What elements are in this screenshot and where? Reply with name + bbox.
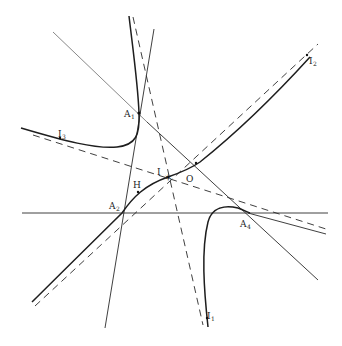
svg-text:1: 1 bbox=[131, 113, 135, 120]
svg-text:1: 1 bbox=[211, 315, 215, 322]
point-o bbox=[195, 162, 197, 164]
label-i: I bbox=[157, 167, 161, 177]
svg-text:A: A bbox=[123, 109, 131, 119]
label-i3: I 3 bbox=[58, 129, 66, 140]
line-a1-a4-cont bbox=[147, 122, 318, 280]
svg-text:A: A bbox=[108, 201, 116, 211]
point-h bbox=[137, 191, 139, 193]
svg-text:A: A bbox=[239, 219, 247, 229]
label-a2: A 2 bbox=[108, 201, 120, 212]
svg-text:2: 2 bbox=[116, 205, 120, 212]
label-o: O bbox=[186, 174, 193, 184]
svg-text:4: 4 bbox=[247, 223, 251, 230]
asymptote-i2 bbox=[35, 44, 318, 306]
svg-text:3: 3 bbox=[62, 133, 66, 140]
point-i2 bbox=[306, 54, 308, 56]
point-a1 bbox=[137, 111, 140, 114]
asymptote-i3 bbox=[33, 135, 326, 229]
curve-branch-upper bbox=[21, 16, 139, 147]
line-a2-a1 bbox=[105, 29, 154, 328]
label-a1: A 1 bbox=[123, 109, 135, 120]
label-i1: I 1 bbox=[207, 311, 215, 322]
svg-text:2: 2 bbox=[313, 60, 317, 67]
label-a4: A 4 bbox=[239, 219, 251, 230]
label-h: H bbox=[133, 180, 141, 190]
star-i-icon: ✶ bbox=[164, 172, 172, 183]
asymptote-i1 bbox=[133, 17, 203, 325]
label-i2: I 2 bbox=[309, 56, 317, 67]
geometry-diagram: ✶ A 1 A 2 A 4 I O H I 1 I 2 I 3 bbox=[0, 0, 342, 346]
